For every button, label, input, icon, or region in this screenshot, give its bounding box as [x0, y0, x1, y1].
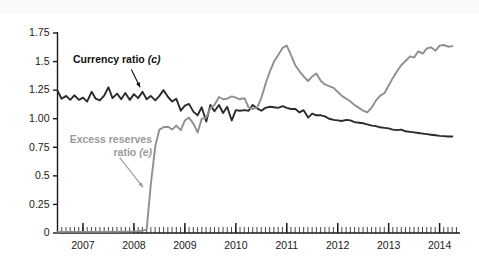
- x-tick-label: 2008: [122, 239, 146, 251]
- x-tick-label: 2011: [275, 239, 298, 251]
- excess-reserves-symbol: (e): [139, 146, 152, 158]
- currency-ratio-line: [58, 87, 453, 136]
- x-axis: 20072008200920102011201220132014: [58, 223, 461, 251]
- line-chart-svg: 00.250.50.751.001.251.51.75 200720082009…: [0, 0, 479, 275]
- x-tick-label: 2010: [224, 239, 248, 251]
- excess-reserves-label: Excess reservesratio (e): [70, 133, 153, 158]
- y-axis: 00.250.50.751.001.251.51.75: [29, 26, 57, 238]
- x-tick-label: 2014: [428, 239, 452, 251]
- y-tick-label: 0.25: [29, 198, 50, 210]
- x-tick-label: 2012: [326, 239, 350, 251]
- y-tick-label: 0.75: [29, 141, 50, 153]
- excess-reserves-label-line2: ratio: [113, 146, 139, 158]
- y-tick-label: 1.25: [29, 83, 50, 95]
- x-tick-label: 2007: [71, 239, 95, 251]
- y-tick-label: 1.5: [35, 55, 50, 67]
- currency-ratio-label-text: Currency ratio: [73, 53, 148, 65]
- y-tick-label: 1.00: [29, 112, 50, 124]
- currency-ratio-symbol: (c): [148, 53, 161, 65]
- y-tick-label: 1.75: [29, 26, 50, 38]
- currency-ratio-label: Currency ratio (c): [73, 53, 161, 65]
- chart-figure: 00.250.50.751.001.251.51.75 200720082009…: [0, 0, 479, 275]
- x-tick-label: 2013: [377, 239, 401, 251]
- y-tick-label: 0.5: [35, 169, 50, 181]
- x-tick-label: 2009: [173, 239, 197, 251]
- excess-reserves-label-line1: Excess reserves: [70, 133, 152, 145]
- y-tick-label: 0: [44, 226, 50, 238]
- annotations-group: Currency ratio (c)Excess reservesratio (…: [70, 53, 161, 187]
- excess-reserves-arrow-line: [120, 158, 143, 188]
